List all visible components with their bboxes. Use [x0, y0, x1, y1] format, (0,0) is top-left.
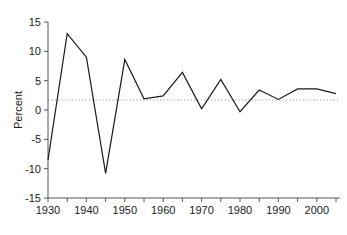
- x-tick-label-2000: 2000: [305, 204, 329, 216]
- y-tick-label--15: -15: [25, 192, 41, 204]
- x-tick-label-1960: 1960: [151, 204, 175, 216]
- x-tick-label-1930: 1930: [36, 204, 60, 216]
- x-tick-label-1940: 1940: [74, 204, 98, 216]
- y-tick-label--10: -10: [25, 163, 41, 175]
- figure-container: -15-10-5051015 1930194019501960197019801…: [0, 0, 347, 235]
- y-tick-label-5: 5: [35, 75, 41, 87]
- line-chart: -15-10-5051015 1930194019501960197019801…: [0, 0, 347, 235]
- chart-background: [0, 0, 347, 235]
- x-tick-label-1980: 1980: [228, 204, 252, 216]
- x-tick-label-1990: 1990: [266, 204, 290, 216]
- y-tick-label--5: -5: [31, 133, 41, 145]
- y-tick-label-15: 15: [29, 16, 41, 28]
- x-tick-label-1970: 1970: [189, 204, 213, 216]
- x-tick-label-1950: 1950: [113, 204, 137, 216]
- y-axis-title: Percent: [12, 91, 24, 129]
- y-tick-label-0: 0: [35, 104, 41, 116]
- y-tick-label-10: 10: [29, 45, 41, 57]
